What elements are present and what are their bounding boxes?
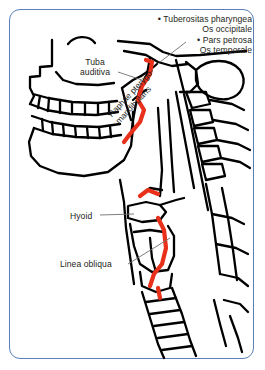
- upper-tooth-sep-2: [48, 98, 49, 111]
- figure-canvas: • Tuberositas pharyngea Os occipitale • …: [0, 0, 265, 370]
- rib-contour: [230, 316, 242, 352]
- vertebra-c5-body: [198, 146, 221, 162]
- label-text-pars-petrosa: Pars petrosa: [203, 35, 252, 45]
- upper-teeth-roots: [33, 94, 117, 103]
- spinous-process-1: [210, 100, 244, 110]
- scapula-edge: [214, 300, 226, 346]
- atlas-outline: [196, 61, 244, 99]
- pharynx-anterior-wall: [158, 108, 162, 196]
- lower-tooth-sep-1: [42, 119, 43, 131]
- laryngeal-prominence: [134, 230, 164, 232]
- label-line-tuberositas: • Tuberositas pharyngea: [140, 14, 252, 24]
- trachea-ring-2: [150, 310, 180, 314]
- vertebra-c3-body: [190, 110, 213, 126]
- larynx-inner-line: [150, 238, 156, 272]
- label-text-os-occipitale: Os occipitale: [140, 24, 252, 34]
- hyoid-greater-horn: [160, 198, 184, 205]
- lower-tooth-sep-4: [75, 126, 76, 137]
- cricoid-cartilage: [140, 272, 172, 292]
- label-tuberositas-pharyngea-block: • Tuberositas pharyngea Os occipitale • …: [140, 14, 252, 56]
- upper-tooth-sep-1: [38, 96, 40, 108]
- trachea-ring-3: [154, 322, 184, 326]
- label-text-auditiva: auditiva: [72, 67, 118, 77]
- cervical-lower-col-2: [222, 188, 237, 280]
- spinous-process-4: [221, 158, 250, 168]
- label-text-tuberositas: Tuberositas pharyngea: [163, 14, 252, 24]
- upper-teeth-arch: [30, 104, 118, 115]
- spinous-process-2: [213, 120, 248, 130]
- label-text-os-temporale: Os temporale: [140, 45, 252, 55]
- label-line-pars-petrosa: • Pars petrosa: [140, 35, 252, 45]
- bullet-icon-2: •: [197, 35, 200, 45]
- label-tuba-auditiva: Tuba auditiva: [72, 57, 118, 78]
- lower-tooth-sep-7: [110, 126, 111, 137]
- hyoid-red-mark: [140, 190, 158, 196]
- bullet-icon: •: [158, 14, 161, 24]
- lower-teeth-arch: [32, 116, 120, 127]
- trachea-ring-5: [162, 346, 192, 350]
- trachea-red-mark: [158, 288, 160, 298]
- lower-tooth-sep-5: [87, 127, 88, 138]
- lower-teeth-base: [34, 128, 121, 138]
- label-linea-obliqua: Linea obliqua: [60, 259, 130, 269]
- lower-vertebra-branch-4: [224, 300, 248, 312]
- lower-vertebra-branch-3: [220, 274, 248, 286]
- trachea-ring-4: [158, 334, 188, 338]
- spinous-process-3: [217, 140, 250, 150]
- label-text-tuba: Tuba: [72, 57, 118, 67]
- vertebra-c4-body: [194, 128, 217, 144]
- nasal-upper-curve: [68, 37, 95, 44]
- pharynx-posterior-wall: [168, 100, 174, 192]
- label-hyoid: Hyoid: [70, 211, 110, 221]
- lower-tooth-sep-2: [52, 122, 53, 134]
- cervical-lower-col: [206, 184, 220, 274]
- lower-tooth-sep-6: [99, 127, 100, 138]
- vertebra-c2-body: [186, 92, 210, 108]
- vertebra-c6-body: [202, 164, 225, 180]
- lower-tooth-sep-3: [63, 124, 64, 136]
